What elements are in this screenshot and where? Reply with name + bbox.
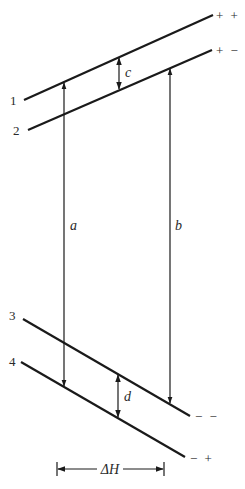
arrow-label-c: c: [125, 65, 132, 80]
energy-level-diagram: 1 2 3 4 + + + − − − − + a b c d ΔH: [0, 0, 245, 489]
diagram-svg: 1 2 3 4 + + + − − − − + a b c d ΔH: [0, 0, 245, 489]
level-label-2: 2: [13, 123, 20, 138]
end-label-minus-minus: − −: [195, 409, 219, 424]
level-line-3: [23, 319, 190, 416]
end-label-minus-plus: − +: [190, 451, 214, 466]
level-label-4: 4: [9, 354, 16, 369]
end-label-plus-minus: + −: [216, 43, 240, 58]
arrow-label-a: a: [70, 218, 77, 233]
end-label-plus-plus: + +: [216, 8, 240, 23]
delta-h-label: ΔH: [100, 462, 120, 477]
arrow-label-d: d: [124, 389, 132, 404]
level-line-4: [21, 362, 185, 457]
arrow-label-b: b: [175, 218, 182, 233]
level-line-2: [28, 50, 212, 130]
level-label-3: 3: [9, 308, 16, 323]
level-label-1: 1: [10, 93, 17, 108]
